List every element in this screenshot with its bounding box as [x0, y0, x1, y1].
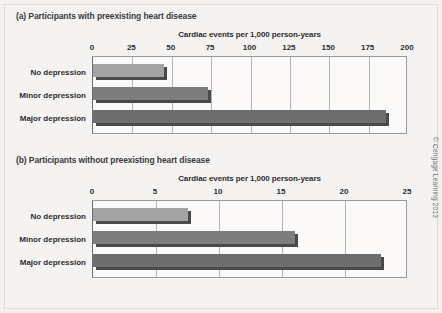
bar-shadow-bottom [96, 221, 191, 224]
x-axis-tick-label: 0 [90, 43, 94, 52]
category-label: Major depression [20, 114, 86, 123]
figure-container: (a) Participants with preexisting heart … [0, 0, 442, 313]
bar-shadow-bottom [96, 244, 298, 247]
x-axis-tick-label: 15 [277, 187, 286, 196]
bar [93, 87, 211, 103]
bar-face [93, 208, 188, 221]
category-label: No depression [30, 68, 86, 77]
bar-shadow-bottom [96, 267, 384, 270]
panel-a-title: (a) Participants with preexisting heart … [16, 11, 196, 21]
bar [93, 254, 384, 270]
bar-shadow-bottom [96, 123, 389, 126]
bar [93, 231, 298, 247]
bar-face [93, 231, 295, 244]
x-axis-tick-label: 175 [361, 43, 374, 52]
bar [93, 208, 191, 224]
panel-b-title: (b) Participants without preexisting hea… [16, 155, 210, 165]
bar-face [93, 87, 208, 100]
x-axis-tick-label: 75 [206, 43, 215, 52]
x-axis-tick-label: 10 [214, 187, 223, 196]
panel-a-axis-title: Cardiac events per 1,000 person-years [92, 30, 407, 39]
bar-face [93, 254, 381, 267]
x-axis-tick-label: 150 [322, 43, 335, 52]
x-axis-tick-label: 25 [403, 187, 412, 196]
x-axis-tick-label: 50 [166, 43, 175, 52]
panel-b-axis-title: Cardiac events per 1,000 person-years [92, 174, 407, 183]
bar-row: Minor depression [93, 231, 408, 247]
category-label: Major depression [20, 258, 86, 267]
bar [93, 110, 389, 126]
x-axis-tick-label: 25 [127, 43, 136, 52]
bar [93, 64, 167, 80]
bar-row: Major depression [93, 254, 408, 270]
category-label: Minor depression [19, 91, 86, 100]
x-axis-tick-label: 200 [400, 43, 413, 52]
category-label: No depression [30, 212, 86, 221]
bar-row: No depression [93, 208, 408, 224]
panel-a-plot-area: No depressionMinor depressionMajor depre… [92, 56, 407, 134]
panel-a: (a) Participants with preexisting heart … [0, 0, 442, 150]
x-axis-tick-label: 0 [90, 187, 94, 196]
bar-face [93, 64, 164, 77]
x-axis-tick-label: 5 [153, 187, 157, 196]
bar-row: Minor depression [93, 87, 408, 103]
panel-b: (b) Participants without preexisting hea… [0, 148, 442, 308]
panel-b-plot-area: No depressionMinor depressionMajor depre… [92, 200, 407, 278]
category-label: Minor depression [19, 235, 86, 244]
bar-face [93, 110, 386, 123]
copyright-notice: © Cengage Learning 2013 [432, 137, 439, 218]
x-axis-tick-label: 100 [243, 43, 256, 52]
bar-row: Major depression [93, 110, 408, 126]
x-axis-tick-label: 20 [340, 187, 349, 196]
bar-shadow-bottom [96, 77, 167, 80]
bar-shadow-bottom [96, 100, 211, 103]
x-axis-tick-label: 125 [282, 43, 295, 52]
bar-row: No depression [93, 64, 408, 80]
